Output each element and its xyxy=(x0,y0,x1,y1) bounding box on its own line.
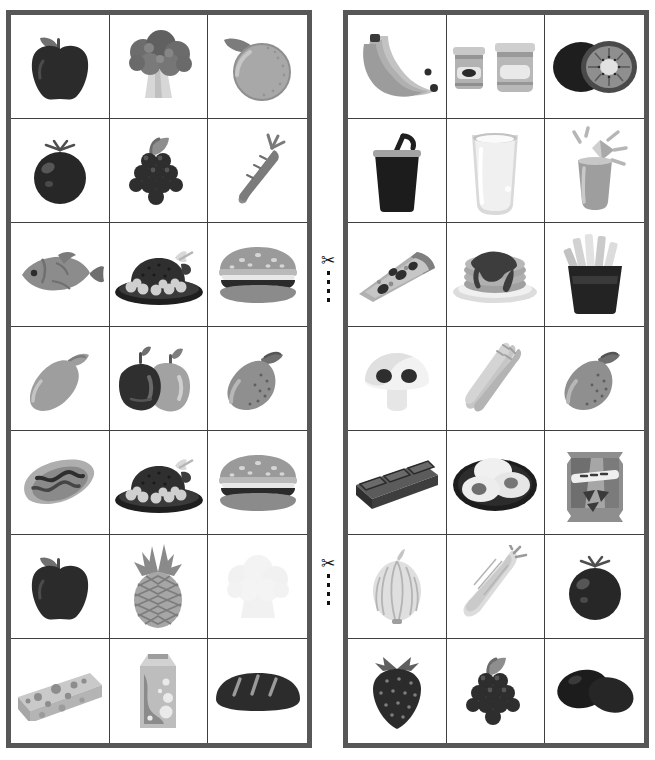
card-cell-strawberry[interactable] xyxy=(348,639,447,743)
card-cell-grapes[interactable] xyxy=(110,119,209,223)
card-cell-hot_dog[interactable] xyxy=(11,431,110,535)
cut-mark-1: ✂ xyxy=(313,252,343,305)
hamburger-icon xyxy=(212,452,304,514)
soda-cup-icon xyxy=(365,128,429,214)
card-cell-jam_jars[interactable] xyxy=(447,15,546,119)
card-cell-french_fries[interactable] xyxy=(545,223,644,327)
card-cell-kiwi[interactable] xyxy=(545,15,644,119)
card-cell-bananas[interactable] xyxy=(348,15,447,119)
card-cell-roast_turkey[interactable] xyxy=(110,223,209,327)
card-cell-bell_peppers[interactable] xyxy=(110,327,209,431)
card-cell-chips_bag[interactable] xyxy=(545,431,644,535)
grapes-icon xyxy=(117,129,199,213)
milk-glass-icon xyxy=(464,125,526,217)
mango-icon xyxy=(217,341,299,417)
tomato-icon xyxy=(557,550,633,624)
card-cell-grapes[interactable] xyxy=(447,639,546,743)
roast-turkey-icon xyxy=(110,450,209,516)
pizza-slice-icon xyxy=(351,244,443,306)
card-cell-chocolate_bar[interactable] xyxy=(348,431,447,535)
card-cell-mango[interactable] xyxy=(545,327,644,431)
right-card-panel xyxy=(343,10,649,748)
card-cell-cheese[interactable] xyxy=(11,639,110,743)
milk-carton-icon xyxy=(130,648,186,734)
hot-dog-icon xyxy=(13,452,107,514)
onion-icon xyxy=(362,545,432,629)
card-cell-tomato[interactable] xyxy=(545,535,644,639)
card-cell-roast_turkey[interactable] xyxy=(110,431,209,535)
card-cell-apple[interactable] xyxy=(11,535,110,639)
olives-icon xyxy=(551,663,639,719)
bread-icon xyxy=(210,665,306,717)
apple-icon xyxy=(23,548,97,626)
card-cell-cauliflower[interactable] xyxy=(208,535,307,639)
pancakes-icon xyxy=(447,244,543,306)
card-cell-bread[interactable] xyxy=(208,639,307,743)
card-cell-apple[interactable] xyxy=(11,15,110,119)
right-card-grid xyxy=(348,15,644,743)
kiwi-icon xyxy=(547,36,643,98)
card-cell-milk_carton[interactable] xyxy=(110,639,209,743)
cut-line-column: ✂ ✂ xyxy=(312,10,344,748)
worksheet-sheet: ✂ ✂ xyxy=(0,0,655,760)
mushroom-icon xyxy=(357,343,437,415)
tomato-icon xyxy=(22,134,98,208)
card-cell-fried_eggs[interactable] xyxy=(447,431,546,535)
jam-jar-icon xyxy=(447,35,543,99)
card-cell-fish[interactable] xyxy=(11,223,110,327)
card-cell-olives[interactable] xyxy=(545,639,644,743)
pineapple-icon xyxy=(118,542,198,632)
card-cell-pancakes[interactable] xyxy=(447,223,546,327)
card-cell-corn[interactable] xyxy=(447,535,546,639)
corn-icon xyxy=(454,545,536,629)
card-cell-orange[interactable] xyxy=(208,15,307,119)
hamburger-icon xyxy=(212,244,304,306)
grapes-icon xyxy=(454,649,536,733)
left-card-grid xyxy=(11,15,307,743)
cut-dash-line xyxy=(327,271,330,305)
card-cell-mushroom[interactable] xyxy=(348,327,447,431)
card-cell-asparagus[interactable] xyxy=(447,327,546,431)
card-cell-pineapple[interactable] xyxy=(110,535,209,639)
cauliflower-icon xyxy=(215,548,301,626)
cut-dash-line xyxy=(327,574,330,608)
card-cell-onion[interactable] xyxy=(348,535,447,639)
scissors-icon: ✂ xyxy=(313,252,343,269)
card-cell-hamburger[interactable] xyxy=(208,223,307,327)
card-cell-soda_cup[interactable] xyxy=(348,119,447,223)
carrot-icon xyxy=(222,128,294,214)
fries-icon xyxy=(558,232,632,318)
card-cell-carrot[interactable] xyxy=(208,119,307,223)
bananas-icon xyxy=(350,28,444,106)
asparagus-icon xyxy=(455,337,535,421)
bell-pepper-icon xyxy=(113,341,203,417)
lemon-icon xyxy=(21,341,99,417)
apple-icon xyxy=(23,28,97,106)
card-cell-cheeseburger[interactable] xyxy=(208,431,307,535)
card-cell-juice[interactable] xyxy=(545,119,644,223)
scissors-icon: ✂ xyxy=(313,555,343,572)
mango-icon xyxy=(554,341,636,417)
fried-eggs-icon xyxy=(449,451,541,515)
left-card-panel xyxy=(6,10,312,748)
chips-bag-icon xyxy=(557,442,633,524)
strawberry-icon xyxy=(361,649,433,733)
roast-turkey-icon xyxy=(110,242,209,308)
cheese-icon xyxy=(12,661,108,721)
card-cell-broccoli[interactable] xyxy=(110,15,209,119)
card-cell-pizza_slice[interactable] xyxy=(348,223,447,327)
orange-icon xyxy=(218,28,298,106)
card-cell-tomato[interactable] xyxy=(11,119,110,223)
chocolate-bar-icon xyxy=(350,451,444,515)
card-cell-lemon[interactable] xyxy=(11,327,110,431)
card-cell-glass_of_milk[interactable] xyxy=(447,119,546,223)
broccoli-icon xyxy=(115,26,201,108)
juice-glass-icon xyxy=(556,126,634,216)
fish-icon xyxy=(12,247,108,303)
card-cell-mango[interactable] xyxy=(208,327,307,431)
cut-mark-2: ✂ xyxy=(313,555,343,608)
